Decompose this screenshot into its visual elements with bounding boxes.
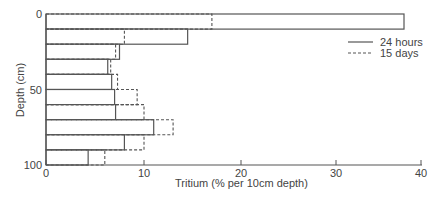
tritium-depth-chart: 010203040 050100 Tritium (% per 10cm dep… [0,0,443,199]
bar-24-hours-70-80 [46,120,154,135]
y-axis-title: Depth (cm) [14,63,26,117]
x-tick-label: 10 [138,167,150,179]
y-axis-ticks: 050100 [24,8,42,171]
bar-24-hours-10-20 [46,29,188,44]
y-tick-label: 0 [36,8,42,20]
bar-24-hours-20-30 [46,44,120,59]
bar-24-hours-30-40 [46,59,108,74]
bar-24-hours-90-100 [46,150,88,165]
legend-label: 15 days [380,47,419,59]
legend: 24 hours 15 days [348,36,423,59]
legend-item-15-days: 15 days [348,47,419,59]
x-tick-label: 30 [330,167,342,179]
bar-24-hours-40-50 [46,74,112,89]
y-tick-label: 100 [24,159,42,171]
x-axis-title: Tritium (% per 10cm depth) [175,177,308,189]
y-tick-label: 50 [30,84,42,96]
x-tick-label: 0 [43,167,49,179]
series-24-hours [46,14,404,165]
bar-24-hours-0-10 [46,14,404,29]
bar-24-hours-60-70 [46,105,116,120]
bar-24-hours-80-90 [46,135,124,150]
bar-24-hours-50-60 [46,90,115,105]
x-tick-label: 40 [415,167,427,179]
